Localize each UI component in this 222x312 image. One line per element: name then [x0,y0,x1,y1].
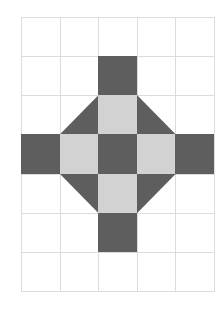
grid-cell [21,174,61,214]
grid-cell [21,17,61,57]
grid-cell [137,17,177,57]
grid-cell [60,17,100,57]
dark-square [98,134,137,174]
grid-cell [60,56,100,96]
light-square [60,134,99,174]
grid-cell [175,213,215,253]
grid-cell [137,213,177,253]
dark-triangle-top-left [137,174,176,213]
grid-cell [175,174,215,214]
grid-cell [21,252,61,292]
dark-square [21,134,60,174]
grid-cell [21,56,61,96]
light-square [98,174,137,214]
grid-cell [175,252,215,292]
dark-triangle-top-right [60,174,99,213]
light-square [137,134,176,174]
dark-square [98,56,137,96]
dark-square [175,134,214,174]
grid-cell [137,252,177,292]
light-square [98,95,137,135]
grid-cell [175,17,215,57]
grid-cell [175,56,215,96]
grid-cell [21,213,61,253]
grid-cell [60,213,100,253]
dark-triangle-bottom-right [60,95,99,134]
dark-square [98,213,137,253]
grid-cell [98,17,138,57]
grid-cell [137,56,177,96]
grid-cell [60,252,100,292]
grid-cell [175,95,215,135]
dark-triangle-bottom-left [137,95,176,134]
grid-cell [98,252,138,292]
grid-cell [21,95,61,135]
pattern-grid [21,17,214,291]
